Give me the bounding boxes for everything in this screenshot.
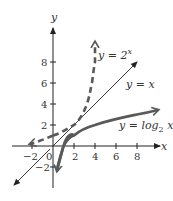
function-graph: x −2 0 2 4 6 8 y 8 6 4 2 −2 y = 2x y = x… [0, 0, 173, 201]
y-tick-label: 2 [41, 120, 47, 131]
logarithm-label: y = log2 x [118, 119, 173, 134]
x-tick-label: 4 [92, 151, 98, 162]
x-tick-label: 8 [134, 151, 140, 162]
y-axis-label: y [50, 11, 58, 24]
logarithm-curve-lower [57, 146, 64, 171]
x-axis-label: x [161, 140, 168, 153]
x-tick-label: −2 [23, 151, 38, 162]
x-tick-label: 6 [113, 151, 119, 162]
x-axis: x −2 0 2 4 6 8 [12, 140, 168, 162]
y-axis: y 8 6 4 2 −2 [35, 11, 58, 188]
exponential-label: y = 2x [97, 47, 132, 62]
x-tick-label: 2 [72, 151, 78, 162]
identity-label: y = x [125, 78, 155, 91]
y-tick-label: 4 [41, 99, 47, 110]
y-tick-label: −2 [35, 162, 50, 173]
identity-line [53, 62, 137, 146]
y-tick-label: 6 [41, 78, 47, 89]
y-tick-label: 8 [41, 57, 47, 68]
exponential-curve [53, 42, 95, 136]
exponential-curve-left [30, 136, 53, 145]
